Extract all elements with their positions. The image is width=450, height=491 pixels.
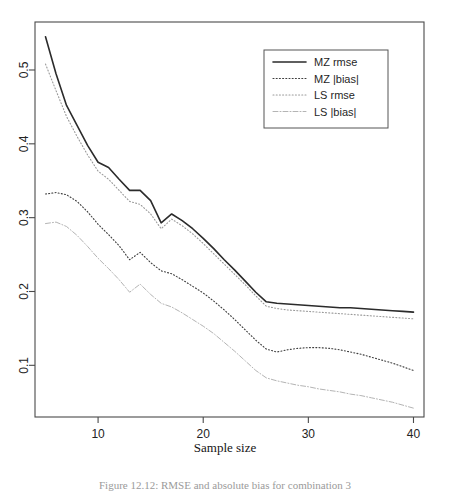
x-axis-label: Sample size — [194, 440, 257, 455]
x-axis-ticks: 10203040 — [91, 417, 420, 441]
line-chart: 10203040 0.10.20.30.40.5 MZ rmseMZ |bias… — [0, 0, 450, 478]
legend-label: LS rmse — [314, 89, 355, 101]
legend-label: MZ |bias| — [314, 73, 359, 85]
y-tick-label: 0.4 — [17, 135, 31, 152]
x-tick-label: 20 — [197, 427, 211, 441]
y-tick-label: 0.1 — [17, 357, 31, 374]
x-tick-label: 40 — [407, 427, 421, 441]
y-tick-label: 0.2 — [17, 283, 31, 300]
legend-label: MZ rmse — [314, 56, 357, 68]
x-tick-label: 10 — [91, 427, 105, 441]
legend-label: LS |bias| — [314, 106, 356, 118]
figure-container: 10203040 0.10.20.30.40.5 MZ rmseMZ |bias… — [0, 0, 450, 491]
chart-legend: MZ rmseMZ |bias|LS rmseLS |bias| — [264, 50, 388, 128]
figure-caption: Figure 12.12: RMSE and absolute bias for… — [0, 478, 450, 491]
y-tick-label: 0.5 — [17, 61, 31, 78]
x-tick-label: 30 — [302, 427, 316, 441]
y-tick-label: 0.3 — [17, 209, 31, 226]
y-axis-ticks: 0.10.20.30.40.5 — [17, 61, 35, 373]
series-line — [46, 193, 414, 371]
